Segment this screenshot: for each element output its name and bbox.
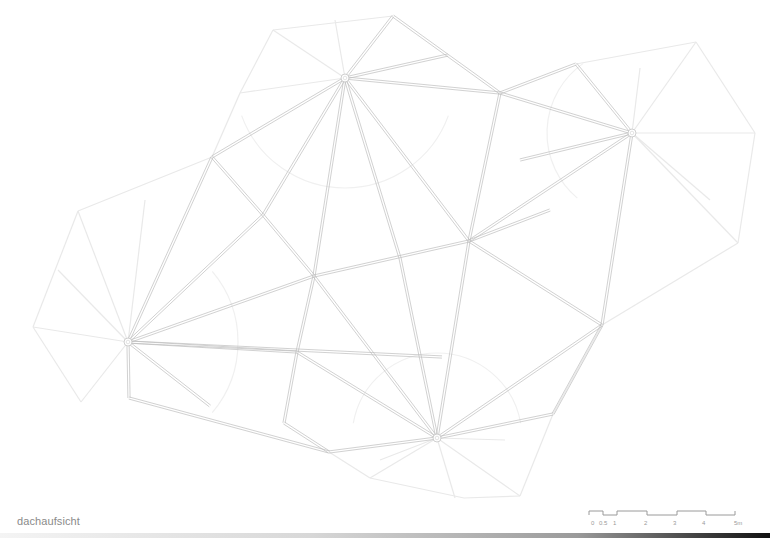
scale-label: 0 bbox=[591, 520, 594, 526]
beam bbox=[520, 132, 633, 161]
beam bbox=[500, 63, 577, 94]
beam bbox=[345, 54, 448, 79]
scale-label: 2 bbox=[644, 520, 647, 526]
secondary-line bbox=[78, 211, 128, 342]
roof-plan-drawing bbox=[0, 0, 770, 538]
scale-label: 0.5 bbox=[599, 520, 607, 526]
beam bbox=[296, 351, 437, 439]
beam bbox=[127, 342, 130, 398]
beam bbox=[344, 15, 394, 78]
secondary-line bbox=[738, 133, 755, 243]
scale-bar-graphic bbox=[589, 508, 739, 530]
primary-roof-beams bbox=[127, 15, 633, 453]
secondary-line bbox=[632, 133, 710, 200]
ring-arc bbox=[212, 271, 238, 412]
secondary-line bbox=[33, 211, 78, 327]
hub-top-icon bbox=[341, 74, 349, 82]
secondary-line bbox=[329, 452, 370, 478]
beam bbox=[329, 437, 437, 453]
beam bbox=[262, 214, 315, 276]
beam bbox=[344, 78, 401, 259]
roof-hubs bbox=[124, 74, 636, 442]
beam bbox=[468, 93, 501, 241]
beam bbox=[127, 214, 264, 343]
scale-label: 4 bbox=[702, 520, 705, 526]
beam bbox=[344, 77, 470, 241]
beam bbox=[283, 422, 329, 453]
beam bbox=[601, 133, 633, 325]
secondary-line bbox=[576, 42, 696, 64]
beam bbox=[399, 258, 438, 438]
secondary-line bbox=[380, 438, 437, 460]
beam bbox=[313, 78, 346, 276]
ring-arc bbox=[547, 63, 583, 198]
secondary-line bbox=[273, 16, 393, 30]
beam bbox=[437, 413, 553, 439]
secondary-line bbox=[553, 325, 602, 414]
hub-left-icon bbox=[124, 338, 132, 346]
ring-arc bbox=[242, 116, 449, 188]
scale-label: 1 bbox=[613, 520, 616, 526]
beam bbox=[469, 209, 551, 242]
secondary-line bbox=[464, 496, 520, 498]
bottom-shadow-bar bbox=[0, 533, 770, 538]
beam bbox=[500, 92, 633, 134]
secondary-line bbox=[437, 438, 505, 440]
beam bbox=[314, 240, 469, 277]
secondary-line bbox=[437, 438, 520, 496]
secondary-line bbox=[520, 414, 553, 496]
beam bbox=[283, 352, 298, 423]
beam bbox=[468, 240, 602, 326]
beam bbox=[296, 276, 315, 352]
secondary-line bbox=[602, 243, 738, 325]
secondary-line bbox=[632, 133, 738, 243]
beam bbox=[129, 397, 330, 453]
ring-arc bbox=[353, 353, 520, 423]
drawing-caption: dachaufsicht bbox=[17, 515, 80, 527]
hub-bottom-icon bbox=[433, 434, 441, 442]
beam bbox=[211, 156, 264, 215]
ring-arcs bbox=[212, 63, 583, 423]
beam bbox=[128, 275, 315, 343]
beam bbox=[436, 324, 602, 439]
secondary-line bbox=[273, 30, 345, 78]
secondary-line bbox=[33, 327, 128, 342]
secondary-line bbox=[33, 327, 81, 402]
beam bbox=[345, 77, 500, 94]
secondary-line bbox=[58, 270, 128, 342]
beam bbox=[128, 341, 442, 358]
beam bbox=[468, 132, 632, 242]
secondary-line bbox=[632, 42, 696, 133]
secondary-line bbox=[240, 30, 273, 93]
secondary-line bbox=[335, 20, 345, 78]
secondary-line bbox=[240, 78, 345, 93]
secondary-line bbox=[81, 342, 128, 402]
beam bbox=[436, 241, 470, 438]
scale-bar: 00.512345m bbox=[589, 508, 739, 530]
secondary-line bbox=[437, 438, 455, 498]
scale-label: 3 bbox=[673, 520, 676, 526]
secondary-line bbox=[696, 42, 755, 133]
scale-label: 5m bbox=[734, 520, 742, 526]
beam bbox=[127, 157, 213, 343]
beam bbox=[127, 341, 210, 407]
hub-right-icon bbox=[628, 129, 636, 137]
beam bbox=[211, 77, 345, 158]
